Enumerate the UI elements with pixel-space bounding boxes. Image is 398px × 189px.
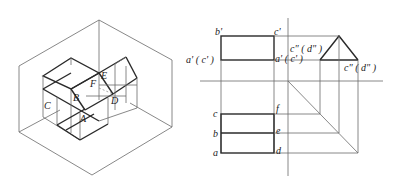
point-label-F: F (89, 78, 97, 89)
label-c-prime: c' (274, 26, 281, 37)
axis-left (19, 110, 60, 132)
label-c-dd-d-dd-bottom: c" ( d" ) (344, 62, 377, 74)
label-f: f (276, 103, 280, 114)
label-a-prime-c-prime-left: a' ( c' ) (186, 54, 215, 66)
point-label-E: E (100, 70, 107, 81)
label-e: e (276, 125, 281, 136)
miter-line (288, 81, 358, 153)
point-label-A: A (79, 113, 87, 124)
label-b-prime: b' (215, 26, 223, 37)
isometric-view: C B A F E D (19, 20, 172, 175)
point-label-C: C (44, 100, 51, 111)
label-c-dd-d-dd-top: c" ( d" ) (290, 43, 323, 55)
point-label-B: B (73, 92, 79, 103)
projection-box-outline (19, 20, 172, 175)
label-b: b (213, 128, 218, 139)
front-view-rect (221, 36, 274, 60)
label-a: a (213, 147, 218, 158)
label-d: d (276, 145, 282, 156)
projection-diagram: C B A F E D b' c' a' ( c' ) a (0, 0, 398, 189)
orthographic-views: b' c' a' ( c' ) a' ( c' ) c" ( d" ) c" (… (186, 18, 383, 176)
object-wireframe (43, 57, 137, 140)
point-label-D: D (110, 95, 119, 106)
label-c: c (213, 108, 218, 119)
axis-right (130, 103, 172, 127)
label-a-prime-c-prime-right: a' ( c' ) (275, 53, 304, 65)
